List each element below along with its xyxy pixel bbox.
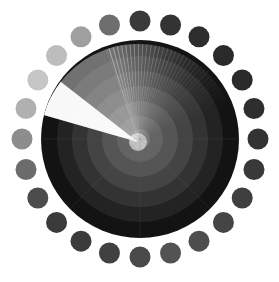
perimeter-dot [16,98,37,119]
perimeter-dot [27,70,48,91]
radar-graphic [0,0,279,282]
perimeter-dot [160,242,181,263]
perimeter-dot [27,188,48,209]
perimeter-dot [243,98,264,119]
radar-disk [41,40,239,238]
perimeter-dot [213,212,234,233]
perimeter-dot [189,231,210,252]
sweep-apex-glow [129,133,147,151]
perimeter-dot [232,70,253,91]
radar-icon-canvas [0,0,279,282]
perimeter-dot [248,129,269,150]
perimeter-dot [160,15,181,36]
perimeter-dot [16,159,37,180]
perimeter-dot [243,159,264,180]
perimeter-dot [213,45,234,66]
perimeter-dot [12,129,33,150]
perimeter-dot [71,231,92,252]
perimeter-dot [99,242,120,263]
perimeter-dot [46,212,67,233]
perimeter-dot [71,26,92,47]
perimeter-dot [99,15,120,36]
perimeter-dot [232,188,253,209]
perimeter-dot [130,11,151,32]
perimeter-dot [189,26,210,47]
perimeter-dot [130,247,151,268]
radar-crosshair-lines [41,40,239,238]
perimeter-dot [46,45,67,66]
